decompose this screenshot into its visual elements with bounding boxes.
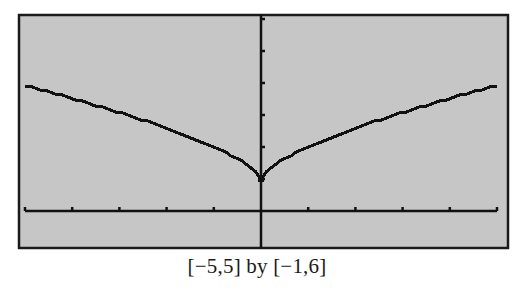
window-range-caption: [−5,5] by [−1,6] xyxy=(0,254,514,279)
vertex-point xyxy=(258,176,264,182)
calculator-graph-screen xyxy=(0,0,514,294)
